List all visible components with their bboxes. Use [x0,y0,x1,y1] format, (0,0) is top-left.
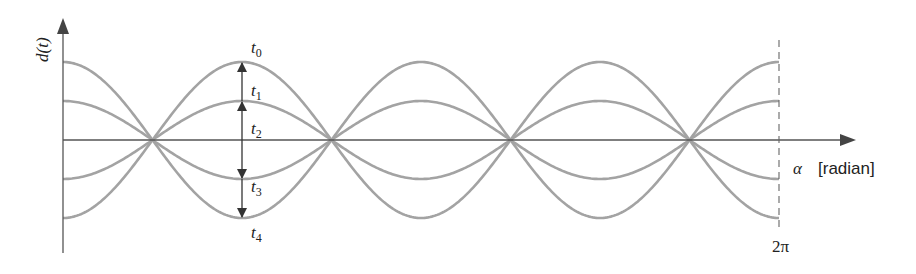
label-t1: t1 [251,81,262,103]
x-axis-symbol: α [793,159,803,178]
label-t3: t3 [251,177,262,199]
y-axis-arrow-icon [57,18,69,34]
y-axis-label: d(t) [33,37,52,62]
label-t0: t0 [251,38,262,60]
x-axis-arrow-icon [840,134,856,146]
label-t2: t2 [251,119,262,141]
standing-wave-diagram: d(t) 2π α [radian] t0 t1 t2 t3 t4 [0,0,916,274]
x-axis-unit: [radian] [818,159,875,178]
x-end-tick-label: 2π [772,237,790,256]
label-t4: t4 [251,223,262,245]
